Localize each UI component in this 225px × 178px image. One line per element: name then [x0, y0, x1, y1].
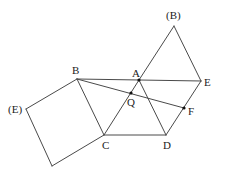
label-d: D	[163, 139, 171, 151]
main-lines	[77, 79, 201, 135]
marked-points	[129, 78, 185, 109]
segment-a-b-prime	[139, 26, 174, 80]
square-on-bc	[26, 79, 104, 166]
segment-a-d	[139, 80, 166, 135]
segment-s-c	[52, 135, 104, 166]
segment-b-c	[77, 79, 104, 135]
label-b-prime: (B)	[166, 9, 181, 22]
label-a: A	[132, 67, 140, 79]
label-q: Q	[127, 96, 135, 108]
segment-e-prime-s	[26, 109, 52, 166]
label-e: E	[204, 76, 211, 88]
label-b: B	[72, 64, 79, 76]
geometry-diagram: B A E (B) (E) C D Q F	[0, 0, 225, 178]
label-e-prime: (E)	[8, 103, 22, 116]
point-q-dot	[129, 91, 132, 94]
label-c: C	[102, 139, 109, 151]
segment-b-e-prime	[26, 79, 77, 109]
segment-b-prime-e	[174, 26, 201, 81]
label-f: F	[188, 105, 194, 117]
point-f-dot	[182, 106, 185, 109]
top-triangle	[139, 26, 201, 81]
